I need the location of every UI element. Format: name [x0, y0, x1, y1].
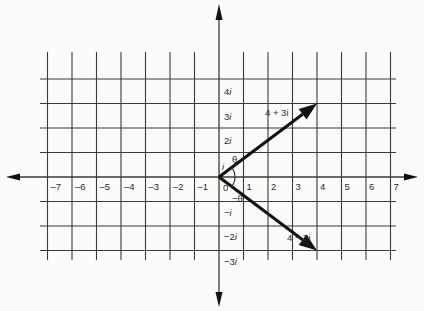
arrowhead-up-icon — [216, 4, 223, 20]
real-tick-label: –5 — [100, 182, 111, 192]
angle-label-neg-theta: −θ — [232, 194, 243, 204]
arrowhead-left-icon — [6, 174, 20, 181]
origin-label: 0 — [223, 183, 228, 193]
imag-tick-label: 4i — [224, 87, 231, 97]
real-tick-label: 4 — [320, 182, 325, 192]
grid — [40, 52, 396, 260]
real-tick-label: –1 — [198, 182, 209, 192]
axes — [6, 4, 418, 307]
vector-label-4-plus-3i: 4 + 3i — [265, 108, 289, 118]
real-tick-label: –4 — [124, 182, 135, 192]
real-tick-label: 6 — [369, 182, 374, 192]
vector-label-4-minus-3i: 4 − 3i — [287, 233, 311, 243]
imag-tick-label: −i — [224, 208, 232, 218]
imag-tick-label: i — [222, 162, 224, 172]
real-tick-label: 7 — [394, 182, 399, 192]
real-tick-label: 3 — [296, 182, 301, 192]
real-tick-label: 5 — [345, 182, 350, 192]
real-tick-label: –2 — [173, 182, 184, 192]
imag-tick-label: 3i — [224, 112, 231, 122]
arrowhead-icon — [299, 104, 317, 120]
imag-tick-label: −3i — [224, 257, 237, 267]
imag-tick-label: 2i — [224, 136, 231, 146]
real-tick-label: –6 — [75, 182, 86, 192]
real-tick-label: –3 — [149, 182, 160, 192]
complex-plane-diagram: –7–6–5–4–3–2–112345674i3i2ii−i−2i−3i 4 +… — [0, 0, 424, 311]
imag-tick-label: −2i — [224, 232, 237, 242]
angle-label-theta: θ — [232, 155, 237, 165]
real-tick-label: –7 — [51, 182, 62, 192]
arrowhead-down-icon — [216, 292, 223, 307]
complex-plane-canvas — [0, 0, 424, 311]
real-tick-label: 2 — [271, 182, 276, 192]
arrowhead-right-icon — [404, 174, 418, 181]
real-tick-label: 1 — [247, 182, 252, 192]
